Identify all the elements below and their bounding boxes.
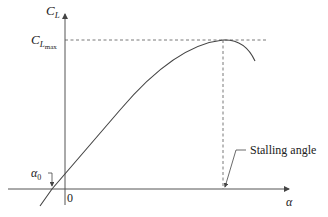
alpha0-label: α0 — [31, 166, 41, 182]
diagram-canvas: CL CLmax α0 0 α Stalling angle — [0, 0, 328, 217]
lift-curve-diagram: CL CLmax α0 0 α Stalling angle — [0, 0, 328, 217]
y-axis-label: CL — [46, 3, 60, 20]
x-axis-label: α — [286, 195, 293, 209]
stall-label: Stalling angle — [250, 143, 316, 157]
origin-label: 0 — [67, 191, 73, 205]
stall-pointer — [225, 150, 246, 187]
cmax-label: CLmax — [31, 32, 57, 51]
alpha0-pointer — [48, 173, 52, 186]
